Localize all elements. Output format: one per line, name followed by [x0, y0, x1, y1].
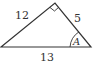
angle-label: A [72, 36, 80, 47]
right-angle-marker [50, 7, 59, 11]
side-label-right: 5 [74, 12, 81, 25]
side-label-left: 12 [15, 9, 29, 22]
side-label-base: 13 [40, 51, 54, 64]
triangle-diagram: 12 5 13 A [0, 0, 95, 71]
